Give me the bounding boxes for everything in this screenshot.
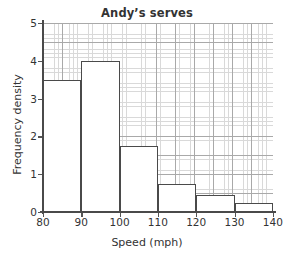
y-axis-title: Frequency density <box>11 45 24 205</box>
x-axis-title: Speed (mph) <box>0 236 294 249</box>
x-label-90: 90 <box>75 216 88 228</box>
x-label-140: 140 <box>263 216 283 228</box>
x-label-100: 100 <box>110 216 130 228</box>
bar-120-130 <box>196 195 234 212</box>
bar-100-110 <box>120 146 158 212</box>
bar-130-140 <box>235 203 273 212</box>
bar-80-90 <box>43 80 81 212</box>
histogram-chart: Andy’s serves 0 1 2 3 4 5 80 90 100 110 … <box>0 0 294 270</box>
bars-group <box>43 23 273 212</box>
bar-90-100 <box>81 61 119 212</box>
x-label-110: 110 <box>148 216 168 228</box>
x-label-130: 130 <box>224 216 244 228</box>
x-label-80: 80 <box>36 216 49 228</box>
x-label-120: 120 <box>186 216 206 228</box>
bar-110-120 <box>158 184 196 212</box>
